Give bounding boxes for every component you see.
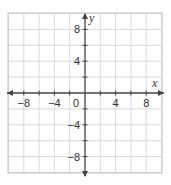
y-tick-label: −4 bbox=[67, 119, 80, 131]
y-tick-label: 4 bbox=[74, 55, 80, 67]
x-tick-label: −4 bbox=[48, 97, 61, 109]
y-axis-label: y bbox=[88, 11, 95, 25]
x-tick-label: 4 bbox=[113, 97, 119, 109]
x-tick-label: 8 bbox=[143, 97, 149, 109]
y-tick-label: 8 bbox=[74, 23, 80, 35]
origin-label: 0 bbox=[73, 97, 79, 109]
y-axis-down-arrow-icon bbox=[82, 171, 88, 177]
axes bbox=[7, 13, 164, 177]
x-tick-label: −8 bbox=[18, 97, 31, 109]
y-tick-label: −8 bbox=[67, 151, 80, 163]
coordinate-plane: −8−44884−4−8 x y 0 bbox=[0, 0, 171, 185]
x-axis-label: x bbox=[151, 76, 158, 90]
